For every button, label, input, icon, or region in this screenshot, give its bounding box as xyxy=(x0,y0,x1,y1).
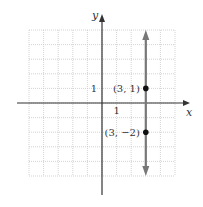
line-arrow-up-icon xyxy=(142,30,149,40)
line-arrow-down-icon xyxy=(142,166,149,176)
point-3-1 xyxy=(143,86,149,92)
y-tick-label: 1 xyxy=(91,83,97,94)
point-3-neg2 xyxy=(143,129,149,135)
x-tick-label: 1 xyxy=(113,105,119,116)
point-label: (3, 1) xyxy=(113,83,140,94)
coordinate-plane: x y 1 1 (3, 1) (3, −2) xyxy=(0,0,203,207)
points: (3, 1) (3, −2) xyxy=(105,83,149,138)
y-axis-label: y xyxy=(91,9,99,22)
point-label: (3, −2) xyxy=(105,127,140,138)
x-axis-label: x xyxy=(186,106,193,119)
y-axis-arrow-icon xyxy=(99,14,105,22)
